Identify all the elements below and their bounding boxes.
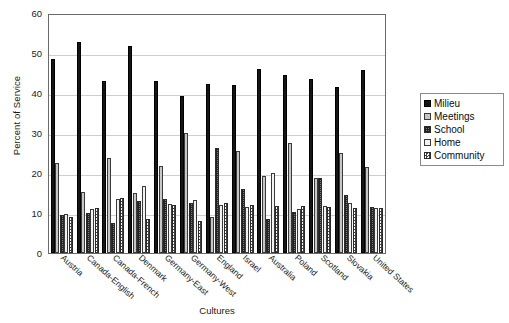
chart-legend: MilieuMeetingsSchoolHomeCommunity	[420, 93, 504, 166]
bar	[159, 166, 163, 253]
bar	[146, 219, 150, 253]
bar-group	[75, 15, 101, 253]
bar	[95, 208, 99, 253]
x-tick-label: Slovakia	[345, 253, 376, 282]
y-tick-label: 0	[16, 249, 42, 259]
bar-group	[359, 15, 385, 253]
bar	[64, 214, 68, 253]
bar-group	[256, 15, 282, 253]
bar-group	[333, 15, 359, 253]
y-tick-label: 60	[16, 9, 42, 19]
bar	[301, 206, 305, 253]
x-tick-label: Austria	[59, 253, 86, 278]
bar-groups	[49, 15, 385, 253]
y-tick-label: 10	[16, 209, 42, 219]
y-tick-label: 50	[16, 49, 42, 59]
y-tick-label: 40	[16, 89, 42, 99]
x-tick-label: Israel	[241, 253, 263, 274]
bar	[297, 209, 301, 253]
bar	[374, 208, 378, 253]
bar	[283, 75, 287, 253]
legend-label: Meetings	[434, 110, 475, 123]
bar	[232, 85, 236, 253]
bar	[327, 207, 331, 253]
bar-group	[127, 15, 153, 253]
bar	[314, 178, 318, 253]
bar	[236, 151, 240, 253]
bar	[172, 205, 176, 253]
bar	[271, 173, 275, 253]
bar	[193, 200, 197, 253]
bar	[51, 59, 55, 253]
bar	[206, 84, 210, 253]
bar	[133, 193, 137, 253]
legend-item[interactable]: Community	[424, 149, 500, 162]
bar	[198, 221, 202, 253]
bar	[168, 204, 172, 253]
legend-item[interactable]: Home	[424, 136, 500, 149]
bar-group	[101, 15, 127, 253]
bar-chart-figure: Percent of Service 6050403020100 Austria…	[0, 0, 509, 323]
bar	[275, 206, 279, 253]
bar	[60, 215, 64, 253]
bar	[262, 176, 266, 253]
legend-swatch-icon	[424, 113, 431, 120]
bar	[292, 212, 296, 253]
legend-swatch-icon	[424, 100, 431, 107]
x-axis-title: Cultures	[48, 305, 386, 316]
bar	[241, 189, 245, 253]
bar	[309, 79, 313, 253]
bar	[163, 199, 167, 253]
bar	[77, 42, 81, 253]
legend-label: Community	[434, 149, 485, 162]
bar	[339, 153, 343, 253]
bar	[120, 198, 124, 253]
y-tick-label: 30	[16, 129, 42, 139]
bar	[154, 81, 158, 253]
plot-area	[48, 14, 386, 254]
bar	[86, 213, 90, 253]
legend-swatch-icon	[424, 139, 431, 146]
legend-swatch-icon	[424, 126, 431, 133]
bar-group	[152, 15, 178, 253]
bar	[288, 143, 292, 253]
bar	[107, 158, 111, 253]
bar	[90, 209, 94, 253]
bar-group	[49, 15, 75, 253]
bar	[137, 201, 141, 253]
bar	[116, 199, 120, 253]
y-tick-label: 20	[16, 169, 42, 179]
bar	[370, 207, 374, 253]
legend-item[interactable]: Meetings	[424, 110, 500, 123]
bar	[55, 163, 59, 253]
bar	[111, 223, 115, 253]
bar	[250, 205, 254, 253]
bar	[335, 87, 339, 253]
legend-label: Home	[434, 136, 461, 149]
bar	[266, 219, 270, 253]
bar	[81, 192, 85, 253]
legend-item[interactable]: Milieu	[424, 97, 500, 110]
bar	[323, 206, 327, 253]
y-axis-tick-labels: 6050403020100	[14, 0, 42, 323]
bar-group	[204, 15, 230, 253]
bar	[128, 46, 132, 253]
legend-item[interactable]: School	[424, 123, 500, 136]
bar	[102, 81, 106, 253]
bar-group	[282, 15, 308, 253]
bar	[210, 217, 214, 253]
bar	[180, 96, 184, 253]
bar	[245, 207, 249, 253]
bar	[215, 148, 219, 253]
x-tick-label: United States	[371, 253, 416, 295]
bar	[361, 70, 365, 253]
bar	[379, 208, 383, 253]
bar	[219, 205, 223, 253]
bar	[142, 186, 146, 253]
bar	[353, 208, 357, 253]
bar	[348, 203, 352, 253]
bar-group	[307, 15, 333, 253]
bar	[189, 203, 193, 253]
bar	[318, 178, 322, 253]
bar	[184, 133, 188, 253]
